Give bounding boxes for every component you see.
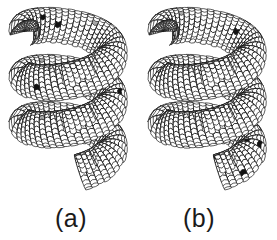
mesh-cell — [76, 155, 82, 160]
cap-cell — [160, 31, 163, 32]
cap-cell — [21, 31, 24, 32]
figure-coiled-nanotubes: (a) (b) — [0, 0, 277, 240]
mesh-cell — [225, 96, 230, 100]
panel-b-caption: (b) — [130, 198, 268, 238]
mesh-cell — [64, 111, 71, 115]
panel-a — [0, 0, 138, 200]
coiled-nanotube-a — [0, 0, 138, 200]
mesh-cell — [72, 42, 78, 47]
mesh-cell — [203, 111, 210, 115]
panel-a-caption: (a) — [2, 198, 140, 238]
mesh-cell — [86, 96, 91, 100]
mesh-cell — [63, 64, 70, 68]
mesh-cell — [211, 42, 217, 47]
panel-b — [139, 0, 277, 200]
figure-panels — [0, 0, 277, 200]
coiled-nanotube-b — [139, 0, 277, 200]
mesh-cell — [86, 49, 91, 53]
mesh-cell — [225, 49, 230, 53]
mesh-cell — [215, 155, 221, 160]
mesh-cell — [202, 64, 209, 68]
figure-captions: (a) (b) — [0, 198, 277, 240]
